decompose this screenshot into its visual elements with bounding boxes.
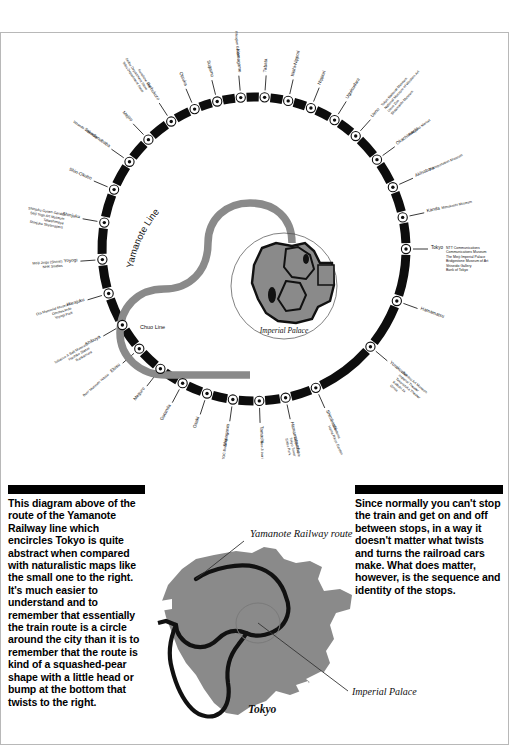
station-node[interactable] (178, 379, 187, 388)
station-tick (260, 408, 261, 423)
station-name: Tokyo (431, 245, 443, 250)
station-tick (88, 295, 102, 299)
station-name: Gotanda (159, 403, 172, 421)
track-segment (380, 164, 390, 181)
track-segment (223, 98, 235, 100)
station-node-dot (401, 216, 404, 219)
tokyo-map-svg: Yamanote Railway route Imperial Palace T… (0, 463, 509, 745)
tokyo-landmass (162, 547, 352, 715)
station-node[interactable] (260, 93, 269, 102)
station-node[interactable] (190, 104, 199, 113)
station-node[interactable] (392, 296, 401, 305)
station-tick (111, 149, 123, 158)
chuo-line-label: Chuo Line (140, 324, 165, 330)
track-segment (395, 193, 401, 212)
station-node[interactable] (167, 117, 176, 126)
imperial-palace-label: Imperial Palace (259, 326, 309, 335)
station-tick (159, 103, 167, 116)
track-segment (143, 353, 156, 365)
station-tick (239, 76, 240, 91)
west-notch (160, 599, 172, 611)
station-node-dot (391, 185, 394, 188)
station-node[interactable] (144, 135, 153, 144)
map-city-label: Tokyo (248, 703, 277, 716)
station-node[interactable] (213, 97, 222, 106)
station-name: Tabata (262, 58, 268, 73)
station-node[interactable] (228, 395, 237, 404)
track-segment (153, 125, 167, 136)
station-note: Bank of Tokyo (446, 268, 468, 272)
station-node-dot (205, 392, 208, 395)
track-segment (321, 351, 366, 385)
track-segment (265, 399, 280, 401)
station-tick (383, 147, 395, 156)
station-tick (290, 79, 293, 94)
track-segment (110, 299, 119, 320)
station-node-dot (193, 107, 196, 110)
station-node[interactable] (135, 344, 144, 353)
station-tick (287, 405, 290, 420)
station-node[interactable] (388, 183, 397, 192)
map-palace-label: Imperial Palace (351, 686, 417, 697)
track-segment (200, 103, 212, 107)
station-node[interactable] (311, 383, 320, 392)
station-tick (376, 351, 387, 361)
station-node[interactable] (109, 185, 118, 194)
station-tick (399, 178, 413, 184)
station-node-dot (395, 299, 398, 302)
station-node[interactable] (306, 103, 315, 112)
track-segment (374, 306, 395, 342)
station-node[interactable] (284, 96, 293, 105)
station-name: Ebisu (109, 362, 121, 374)
station-tick (172, 389, 179, 402)
station-name: Ueno (369, 106, 380, 118)
yamanote-line-label: Yamanote Line (124, 206, 161, 269)
station-node[interactable] (156, 364, 165, 373)
track-segment (270, 98, 282, 100)
station-node[interactable] (401, 244, 410, 253)
station-tick (410, 213, 425, 216)
station-node-dot (309, 106, 312, 109)
station-node[interactable] (255, 396, 264, 405)
station-node[interactable] (98, 255, 107, 264)
station-name: Meguro (132, 386, 146, 402)
ring-diagram-svg: Imperial Palace Yamanote Line Chuo Line … (0, 33, 509, 465)
station-note: NTT Communications (446, 246, 480, 250)
station-node[interactable] (236, 93, 245, 102)
station-node[interactable] (104, 289, 113, 298)
station-tick (83, 219, 98, 222)
station-node[interactable] (372, 155, 381, 164)
station-node-dot (263, 96, 266, 99)
station-node-dot (286, 99, 289, 102)
station-node-dot (239, 96, 242, 99)
station-note: Rikugien Garden (234, 31, 240, 58)
station-node[interactable] (100, 218, 109, 227)
station-node-dot (284, 396, 287, 399)
track-segment (239, 400, 254, 401)
station-note: Transportation Museum (428, 153, 463, 172)
track-segment (105, 195, 111, 217)
station-node-dot (128, 160, 131, 163)
track-segment (133, 144, 144, 157)
station-tick (265, 75, 266, 90)
track-segment (102, 228, 103, 253)
page: Imperial Palace Yamanote Line Chuo Line … (0, 0, 511, 756)
station-note: The Meiji Imperial Palace (446, 255, 485, 259)
station-note: Communications Museum (446, 250, 487, 254)
station-node[interactable] (125, 157, 134, 166)
station-node[interactable] (118, 320, 127, 329)
station-node[interactable] (281, 393, 290, 402)
station-node-dot (369, 345, 372, 348)
station-tick (230, 406, 232, 421)
station-note: NHK Studios (43, 264, 64, 269)
station-note: Beer Museum Yebisu (82, 373, 110, 398)
station-tick (133, 124, 143, 135)
station-node[interactable] (398, 213, 407, 222)
station-node[interactable] (351, 131, 360, 140)
station-node-dot (121, 323, 124, 326)
station-node[interactable] (202, 389, 211, 398)
station-name: Mejiro (122, 110, 135, 123)
track-segment (360, 140, 373, 155)
station-node[interactable] (366, 342, 375, 351)
station-node[interactable] (330, 115, 339, 124)
